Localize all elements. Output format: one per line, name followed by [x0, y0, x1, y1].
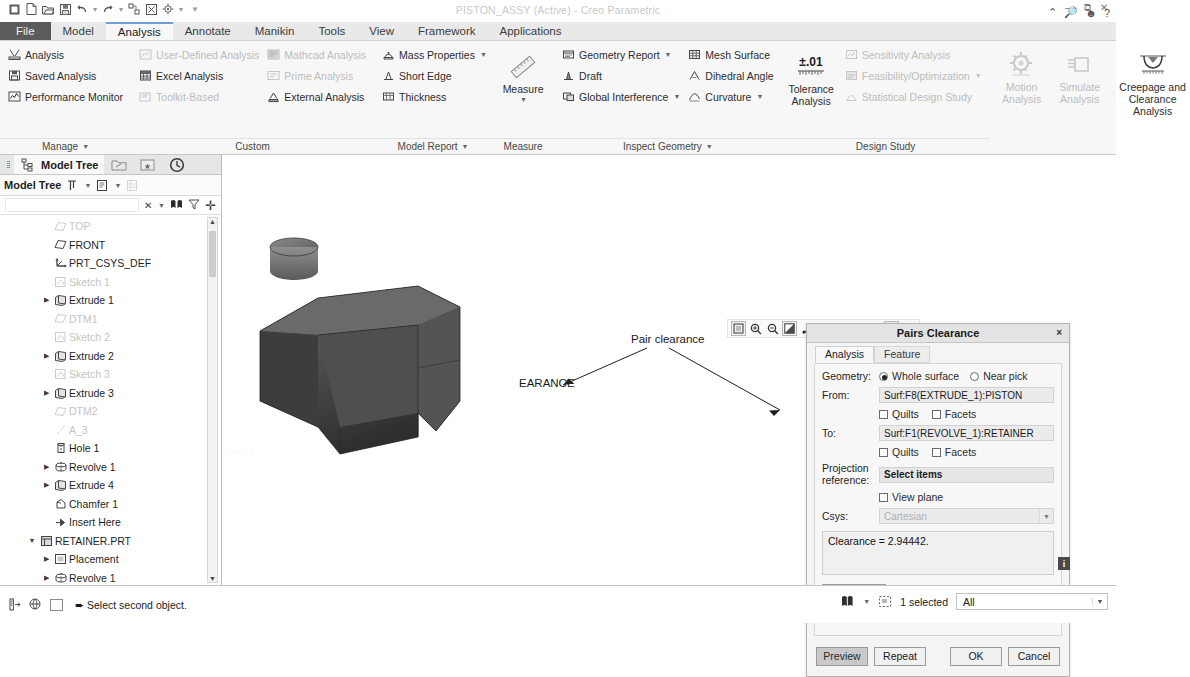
caret-down-icon[interactable]: ▼ [1039, 509, 1053, 523]
chevron-right-icon[interactable]: ▶ [40, 481, 52, 489]
select-items-button[interactable]: Select items [879, 467, 1054, 483]
model-tree-item[interactable]: ▶Revolve 1 [0, 458, 221, 477]
model-tree-scrollbar[interactable]: ▲ ▼ [207, 217, 218, 583]
tree-settings-icon[interactable] [125, 179, 139, 192]
ribbon-item-dihedral-angle[interactable]: Dihedral Angle [684, 66, 777, 85]
model-tree-item[interactable]: PRT_CSYS_DEF [0, 254, 221, 273]
navigator-tab-model-tree[interactable]: Model Tree [14, 155, 104, 174]
ribbon-item-mathcad-analysis[interactable]: Mathcad Analysis [263, 45, 370, 64]
ribbon-item-analysis[interactable]: Analysis [4, 45, 127, 64]
chevron-right-icon[interactable]: ▶ [40, 389, 52, 397]
zoom-in-icon[interactable] [748, 321, 763, 336]
tab-tools[interactable]: Tools [306, 22, 357, 40]
find-icon[interactable] [170, 199, 183, 212]
ribbon-button-motion-analysis[interactable]: Motion Analysis [994, 43, 1050, 106]
ribbon-item-saved-analysis[interactable]: Saved Analysis [4, 66, 127, 85]
panel-grip-icon[interactable]: ⁞⁞ [2, 160, 14, 170]
caret-down-icon[interactable]: ▼ [673, 93, 680, 100]
ribbon-item-draft[interactable]: Draft [558, 66, 684, 85]
tab-framework[interactable]: Framework [406, 22, 488, 40]
chevron-right-icon[interactable]: ▶ [40, 296, 52, 304]
model-tree-list[interactable]: TOPFRONTPRT_CSYS_DEFSketch 1▶Extrude 1DT… [0, 215, 221, 585]
from-input[interactable]: Surf:F8(EXTRUDE_1):PISTON [879, 387, 1054, 403]
ribbon-item-mesh-surface[interactable]: Mesh Surface [684, 45, 777, 64]
checkbox-from-quilts[interactable] [879, 410, 888, 419]
repaint-icon[interactable] [782, 321, 797, 336]
account-icon[interactable]: ☻ [1085, 7, 1097, 19]
model-tree-item[interactable]: Hole 1 [0, 439, 221, 458]
radio-whole-surface[interactable] [879, 372, 888, 381]
radio-near-pick[interactable] [970, 372, 979, 381]
dialog-tab-analysis[interactable]: Analysis [815, 346, 874, 363]
to-input[interactable]: Surf:F1(REVOLVE_1):RETAINER [879, 425, 1054, 441]
repeat-button[interactable]: Repeat [874, 647, 926, 666]
model-tree-item[interactable]: DTM1 [0, 310, 221, 329]
model-tree-item[interactable]: Insert Here [0, 513, 221, 532]
model-tree-item[interactable]: ▶Placement [0, 550, 221, 569]
navigator-tab-folder-browser[interactable] [104, 155, 133, 174]
model-tree-item[interactable]: A_3 [0, 421, 221, 440]
caret-down-icon[interactable]: ▼ [665, 51, 672, 58]
navigator-tab-favorites[interactable] [133, 155, 162, 174]
tab-view[interactable]: View [357, 22, 406, 40]
ribbon-item-prime-analysis[interactable]: Prime Analysis [263, 66, 370, 85]
ribbon-item-feasibility-optimization[interactable]: Feasibility/Optimization ▼ [841, 66, 986, 85]
caret-down-icon[interactable]: ▼ [462, 143, 469, 150]
selection-box-icon[interactable] [878, 595, 892, 609]
model-tree-item[interactable]: FRONT [0, 236, 221, 255]
caret-down-icon[interactable]: ▼ [863, 598, 870, 605]
filter-icon[interactable] [188, 199, 200, 212]
scrollbar-thumb[interactable] [209, 231, 216, 277]
ribbon-item-sensitivity-analysis[interactable]: Sensitivity Analysis [841, 45, 986, 64]
fullscreen-icon[interactable] [50, 599, 63, 611]
ribbon-item-thickness[interactable]: Thickness [378, 87, 491, 106]
tab-model[interactable]: Model [51, 22, 106, 40]
dialog-tab-feature[interactable]: Feature [874, 346, 930, 363]
ribbon-button-tolerance-analysis[interactable]: ±.01 Tolerance Analysis [786, 45, 837, 108]
model-tree-item[interactable]: ▶Extrude 4 [0, 476, 221, 495]
model-tree-item[interactable]: TOP [0, 217, 221, 236]
caret-down-icon[interactable]: ▼ [158, 202, 165, 209]
ribbon-item-performance-monitor[interactable]: Performance Monitor [4, 87, 127, 106]
ribbon-group-label-inspect-geometry[interactable]: Inspect Geometry ▼ [554, 138, 782, 154]
caret-down-icon[interactable]: ▼ [84, 182, 91, 189]
checkbox-view-plane[interactable] [879, 493, 888, 502]
help-icon[interactable]: ? [1104, 7, 1110, 19]
chevron-right-icon[interactable]: ▶ [40, 555, 52, 563]
tree-filters-icon[interactable] [65, 179, 79, 192]
tab-file[interactable]: File [0, 22, 51, 40]
tab-analysis[interactable]: Analysis [106, 22, 173, 40]
caret-down-icon[interactable]: ▼ [82, 143, 89, 150]
clear-icon[interactable]: ✕ [144, 200, 152, 211]
ribbon-item-toolkit-based[interactable]: Toolkit-Based [135, 87, 263, 106]
checkbox-from-facets[interactable] [932, 410, 941, 419]
selection-filter-combo[interactable]: All ▼ [956, 593, 1108, 610]
collapse-ribbon-icon[interactable]: ⌃ [1048, 6, 1057, 19]
chevron-right-icon[interactable]: ▶ [40, 574, 52, 582]
cancel-button[interactable]: Cancel [1008, 647, 1060, 666]
filter-icon[interactable] [840, 595, 854, 609]
ribbon-item-short-edge[interactable]: Short Edge [378, 66, 491, 85]
ribbon-item-statistical-design-study[interactable]: Statistical Design Study [841, 87, 986, 106]
ribbon-group-label-model-report[interactable]: Model Report ▼ [374, 138, 492, 154]
ribbon-button-creepage-clearance-analysis[interactable]: Creepage and Clearance Analysis [1110, 43, 1190, 117]
ribbon-item-user-defined-analysis[interactable]: User-Defined Analysis [135, 45, 263, 64]
model-tree-item[interactable]: ▶Extrude 1 [0, 291, 221, 310]
refit-icon[interactable] [731, 321, 746, 336]
caret-down-icon[interactable]: ▼ [520, 96, 527, 104]
caret-down-icon[interactable]: ▼ [480, 51, 487, 58]
chevron-right-icon[interactable]: ▶ [40, 463, 52, 471]
close-icon[interactable]: × [1056, 327, 1062, 338]
tree-columns-icon[interactable] [95, 179, 109, 192]
ribbon-item-external-analysis[interactable]: External Analysis [263, 87, 370, 106]
caret-down-icon[interactable]: ▼ [1092, 598, 1107, 605]
preview-button[interactable]: Preview [816, 647, 868, 666]
model-tree-item[interactable]: ▶Revolve 1 [0, 569, 221, 586]
ribbon-button-simulate-analysis[interactable]: Simulate Analysis [1052, 43, 1108, 106]
ribbon-button-measure[interactable]: Measure ▼ [496, 45, 550, 104]
ribbon-item-mass-properties[interactable]: Mass Properties ▼ [378, 45, 491, 64]
model-tree-item[interactable]: Chamfer 1 [0, 495, 221, 514]
search-icon[interactable]: 🔎 [1064, 6, 1078, 19]
model-tree-item[interactable]: Sketch 3 [0, 365, 221, 384]
zoom-out-icon[interactable] [765, 321, 780, 336]
